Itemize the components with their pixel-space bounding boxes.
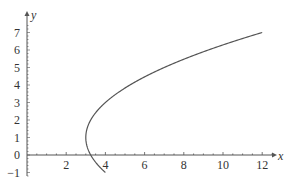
y-tick-label: 7	[14, 26, 20, 40]
x-axis-label: x	[277, 149, 284, 163]
x-tick-label: 6	[142, 158, 148, 172]
y-tick-label: 6	[14, 43, 20, 57]
parabola-curve	[86, 33, 262, 173]
tick-labels: 24681012−101234567	[7, 26, 268, 180]
y-tick-label: −1	[7, 166, 20, 180]
y-axis-arrow-icon	[25, 11, 30, 16]
parabola-chart: 24681012−101234567 x y	[0, 0, 296, 189]
y-tick-label: 5	[14, 61, 20, 75]
y-axis-label: y	[30, 8, 37, 22]
x-tick-label: 10	[217, 158, 229, 172]
x-axis-arrow-icon	[272, 153, 277, 158]
x-tick-label: 8	[181, 158, 187, 172]
y-tick-label: 1	[14, 131, 20, 145]
y-tick-label: 2	[14, 113, 20, 127]
y-tick-label: 0	[14, 148, 20, 162]
y-tick-label: 4	[14, 78, 20, 92]
x-tick-label: 2	[63, 158, 69, 172]
y-tick-label: 3	[14, 96, 20, 110]
x-tick-label: 12	[256, 158, 268, 172]
axes	[25, 11, 278, 176]
axis-ticks	[27, 26, 272, 177]
